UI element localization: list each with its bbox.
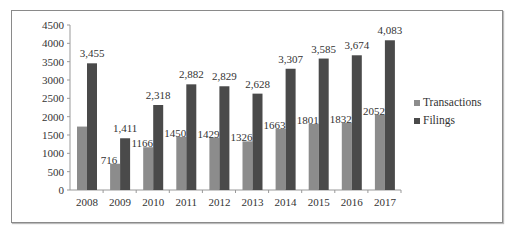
bar-filings-2011 <box>186 84 196 190</box>
x-tick-label: 2013 <box>242 196 265 208</box>
y-tick-label: 3500 <box>42 56 65 68</box>
bar-transactions-2017 <box>375 115 385 190</box>
legend-swatch-filings <box>414 118 420 124</box>
bar-transactions-2010 <box>143 147 153 190</box>
data-label: 2,882 <box>179 68 204 80</box>
bar-filings-2010 <box>153 105 163 190</box>
bar-filings-2017 <box>385 40 395 190</box>
data-label: 2,628 <box>245 78 270 90</box>
y-tick-label: 500 <box>48 166 65 178</box>
data-label: 3,674 <box>344 39 369 51</box>
x-tick-label: 2017 <box>374 196 397 208</box>
bar-transactions-2011 <box>176 137 186 190</box>
bar-filings-2014 <box>286 69 296 190</box>
x-tick-label: 2015 <box>308 196 331 208</box>
bar-filings-2008 <box>87 63 97 190</box>
bar-transactions-2015 <box>309 124 319 190</box>
data-label: 1429 <box>197 128 220 140</box>
legend-swatch-transactions <box>414 100 420 106</box>
bar-transactions-2009 <box>110 164 120 190</box>
data-label: 1166 <box>131 137 153 149</box>
data-label: 1,411 <box>113 122 137 134</box>
bar-filings-2016 <box>352 55 362 190</box>
bar-filings-2013 <box>253 94 263 190</box>
bar-transactions-2013 <box>243 141 253 190</box>
bar-chart: 0500100015002000250030003500400045002008… <box>0 0 512 234</box>
bar-filings-2009 <box>120 138 130 190</box>
data-label: 2052 <box>363 105 385 117</box>
bar-transactions-2008 <box>77 127 87 190</box>
data-label: 3,585 <box>311 43 336 55</box>
data-label: 1832 <box>330 113 352 125</box>
y-tick-label: 1000 <box>42 147 65 159</box>
y-tick-label: 4000 <box>42 37 65 49</box>
y-tick-label: 2500 <box>42 92 65 104</box>
data-label: 1801 <box>297 114 319 126</box>
y-tick-label: 0 <box>59 184 65 196</box>
x-tick-label: 2008 <box>76 196 99 208</box>
data-label: 2,318 <box>146 89 171 101</box>
x-tick-label: 2012 <box>208 196 230 208</box>
bar-transactions-2014 <box>276 129 286 190</box>
data-label: 3,307 <box>278 53 303 65</box>
x-tick-label: 2014 <box>275 196 298 208</box>
bar-filings-2012 <box>219 86 229 190</box>
data-label: 3,455 <box>80 47 105 59</box>
y-tick-label: 4500 <box>42 19 65 31</box>
data-label: 716 <box>101 154 118 166</box>
x-tick-label: 2010 <box>142 196 165 208</box>
data-label: 1663 <box>264 119 287 131</box>
y-tick-label: 2000 <box>42 111 65 123</box>
y-tick-label: 1500 <box>42 129 65 141</box>
data-label: 1450 <box>164 127 187 139</box>
data-label: 2,829 <box>212 70 237 82</box>
data-label: 4,083 <box>378 24 403 36</box>
bar-transactions-2012 <box>209 138 219 190</box>
x-tick-label: 2011 <box>176 196 198 208</box>
bar-transactions-2016 <box>342 123 352 190</box>
y-tick-label: 3000 <box>42 74 65 86</box>
x-tick-label: 2016 <box>341 196 364 208</box>
legend-label-filings: Filings <box>423 114 455 127</box>
legend-label-transactions: Transactions <box>423 96 482 108</box>
bar-filings-2015 <box>319 59 329 190</box>
data-label: 1326 <box>231 131 254 143</box>
x-tick-label: 2009 <box>109 196 132 208</box>
